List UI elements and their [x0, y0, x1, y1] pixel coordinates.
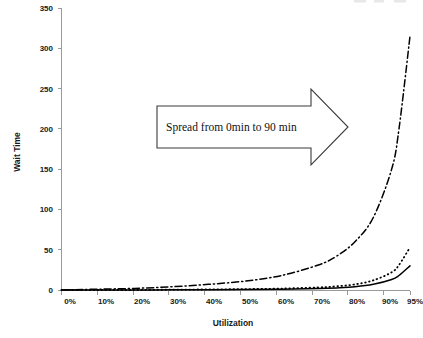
series-low-variability — [62, 266, 411, 290]
x-tick-label-20pct: 20% — [134, 297, 150, 306]
x-tick-label-70pct: 70% — [314, 297, 330, 306]
y-tick-label-150: 150 — [40, 165, 54, 174]
x-tick-label-60pct: 60% — [278, 297, 294, 306]
y-tick-label-200: 200 — [40, 125, 54, 134]
x-axis-title: Utilization — [213, 318, 254, 328]
y-tick-label-100: 100 — [40, 205, 54, 214]
chart-container: 0 50 100 150 200 250 300 350 — [0, 0, 423, 338]
y-tick-label-50: 50 — [44, 246, 53, 255]
series-medium-variability — [62, 247, 411, 290]
x-tick-label-50pct: 50% — [242, 297, 258, 306]
x-tick-label-80pct: 80% — [349, 297, 365, 306]
x-tick-label-90pct: 90% — [382, 297, 398, 306]
x-axis: 0% 10% 20% 30% 40% 50% 60% 70% 80% 90% 9… — [62, 291, 423, 307]
cropped-legend-remnant — [354, 0, 406, 3]
x-tick-label-95pct: 95% — [407, 297, 423, 306]
x-tick-label-40pct: 40% — [206, 297, 222, 306]
y-axis: 0 50 100 150 200 250 300 350 — [40, 4, 62, 295]
spread-arrow-callout: Spread from 0min to 90 min — [157, 89, 348, 165]
y-tick-label-350: 350 — [40, 4, 54, 13]
y-axis-title: Wait Time — [12, 132, 22, 172]
x-axis-ticks — [62, 291, 411, 296]
y-tick-label-250: 250 — [40, 85, 54, 94]
y-tick-label-0: 0 — [49, 286, 54, 295]
series-high-variability — [62, 36, 411, 290]
x-tick-label-30pct: 30% — [170, 297, 186, 306]
series-group — [62, 36, 411, 290]
wait-time-vs-utilization-chart: 0 50 100 150 200 250 300 350 — [0, 0, 423, 338]
x-tick-label-10pct: 10% — [98, 297, 114, 306]
x-tick-label-0pct: 0% — [64, 297, 76, 306]
y-axis-ticks — [58, 8, 62, 290]
spread-arrow-label: Spread from 0min to 90 min — [166, 121, 297, 134]
y-tick-label-300: 300 — [40, 44, 54, 53]
